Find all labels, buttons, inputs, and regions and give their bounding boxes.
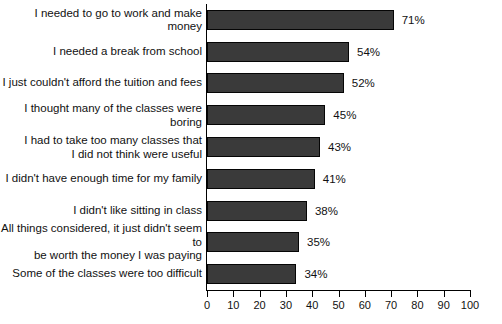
bar-value-label: 43% <box>328 141 351 154</box>
x-axis-tick <box>286 291 287 297</box>
x-axis-tick <box>233 291 234 297</box>
category-label: I had to take too many classes that I di… <box>0 134 202 161</box>
bar-value-label: 52% <box>352 77 375 90</box>
bar-row: I needed to go to work and make money71% <box>0 4 502 36</box>
bar-value-label: 41% <box>323 172 346 185</box>
category-label: I didn't have enough time for my family <box>0 172 202 186</box>
bar <box>207 73 344 93</box>
x-axis-tick <box>260 291 261 297</box>
category-label: I just couldn't afford the tuition and f… <box>0 77 202 91</box>
x-axis-tick <box>207 291 208 297</box>
x-axis-tick <box>365 291 366 297</box>
category-label: Some of the classes were too difficult <box>0 268 202 282</box>
category-label: I needed a break from school <box>0 45 202 59</box>
bar-value-label: 35% <box>307 236 330 249</box>
bar-row: All things considered, it just didn't se… <box>0 227 502 259</box>
bar-row: Some of the classes were too difficult34… <box>0 258 502 290</box>
category-label: All things considered, it just didn't se… <box>0 222 202 263</box>
bar-chart: I needed to go to work and make money71%… <box>0 0 502 324</box>
bar <box>207 42 349 62</box>
bar-value-label: 54% <box>357 45 380 58</box>
plot-area: I needed to go to work and make money71%… <box>0 0 502 324</box>
bar-value-label: 38% <box>315 204 338 217</box>
x-axis-tick <box>417 291 418 297</box>
bar-row: I just couldn't afford the tuition and f… <box>0 68 502 100</box>
bar-row: I thought many of the classes were borin… <box>0 99 502 131</box>
x-axis-tick-label: 100 <box>455 299 485 311</box>
category-label: I didn't like sitting in class <box>0 204 202 218</box>
x-axis-tick <box>312 291 313 297</box>
bar-value-label: 34% <box>304 268 327 281</box>
category-label: I thought many of the classes were borin… <box>0 102 202 129</box>
x-axis-tick <box>339 291 340 297</box>
x-axis-tick <box>391 291 392 297</box>
bar <box>207 264 296 284</box>
bar <box>207 105 325 125</box>
category-label: I needed to go to work and make money <box>0 6 202 33</box>
x-axis-tick <box>444 291 445 297</box>
bar-row: I didn't have enough time for my family4… <box>0 163 502 195</box>
x-axis-tick <box>470 291 471 297</box>
bar <box>207 137 320 157</box>
bar-row: I needed a break from school54% <box>0 36 502 68</box>
bar <box>207 201 307 221</box>
bar <box>207 169 315 189</box>
bar <box>207 232 299 252</box>
bar <box>207 10 394 30</box>
bar-value-label: 45% <box>333 109 356 122</box>
bar-row: I had to take too many classes that I di… <box>0 131 502 163</box>
bar-value-label: 71% <box>402 13 425 26</box>
